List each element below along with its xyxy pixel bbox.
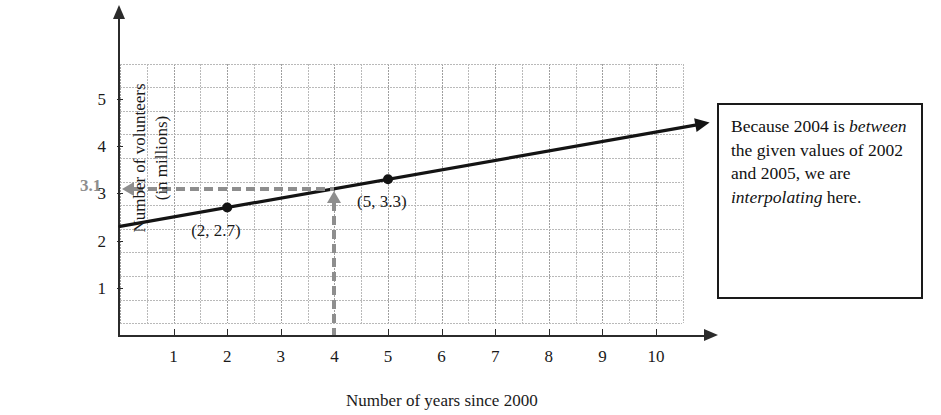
data-point-label: (2, 2.7) (191, 222, 241, 239)
callout-emphasis-between: between (849, 116, 906, 136)
x-axis-title: Number of years since 2000 (346, 391, 538, 411)
x-tick-label: 5 (368, 348, 408, 365)
x-tick-label: 7 (475, 348, 515, 365)
interpolation-guides (118, 18, 710, 337)
y-tick-label: 5 (66, 91, 106, 108)
callout-text-f: here. (827, 187, 862, 207)
x-tick-label: 9 (582, 348, 622, 365)
y-tick-label: 1 (66, 280, 106, 297)
callout-box: Because 2004 is between the given values… (717, 103, 923, 299)
x-tick-label: 6 (422, 348, 462, 365)
callout-text-b: the (731, 140, 752, 160)
y-axis-title-line1: Number of volunteers (129, 63, 151, 253)
y-axis-title-line2: (in millions) (151, 63, 173, 253)
y-tick-label: 2 (66, 233, 106, 250)
interpolation-vertical-dashed-line (332, 202, 336, 335)
callout-text-a: Because 2004 is (731, 116, 845, 136)
x-tick-label: 10 (636, 348, 676, 365)
y-tick-label: 4 (66, 138, 106, 155)
y-axis-arrow-icon (113, 5, 125, 19)
plot-area: (2, 2.7) (5, 3.3) 3.1 Number of years si… (118, 18, 710, 337)
x-tick-label: 1 (154, 348, 194, 365)
interpolation-up-arrow-icon (327, 191, 341, 203)
x-tick-label: 3 (261, 348, 301, 365)
data-point-label: (5, 3.3) (357, 193, 407, 210)
x-tick-label: 8 (529, 348, 569, 365)
y-tick-label: 3 (66, 185, 106, 202)
callout-text-c: given values of (757, 140, 864, 160)
y-axis-title: Number of volunteers (in millions) (129, 63, 173, 253)
callout-text-e: we are (804, 163, 850, 183)
callout-emphasis-interpolating: interpolating (731, 187, 822, 207)
chart-figure: (2, 2.7) (5, 3.3) 3.1 Number of years si… (0, 0, 941, 415)
x-tick-label: 4 (314, 348, 354, 365)
x-tick-label: 2 (207, 348, 247, 365)
